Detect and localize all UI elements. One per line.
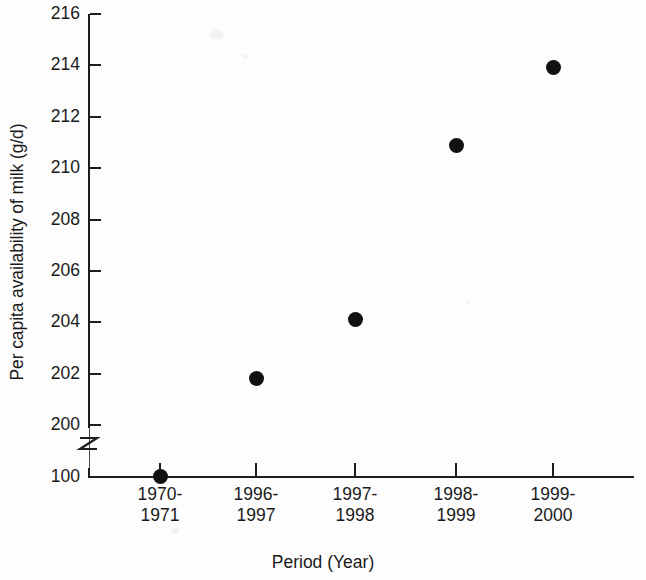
y-tick-mark	[90, 219, 101, 221]
y-tick-label: 214	[0, 56, 80, 74]
y-axis-line	[88, 14, 90, 478]
y-tick-label: 212	[0, 108, 80, 126]
x-tick-label: 1999-2000	[493, 484, 613, 527]
y-tick-label: 216	[0, 5, 80, 23]
y-tick-label: 206	[0, 262, 80, 280]
y-tick-label: 202	[0, 365, 80, 383]
x-tick-mark	[455, 463, 457, 477]
x-tick-mark	[552, 463, 554, 477]
data-point	[546, 60, 561, 75]
y-tick-mark	[90, 321, 101, 323]
x-tick-mark	[255, 463, 257, 477]
data-point	[153, 469, 168, 484]
y-tick-mark	[90, 167, 101, 169]
chart-figure: Per capita availability of milk (g/d) 21…	[0, 0, 646, 580]
axis-break-icon	[75, 428, 105, 468]
y-tick-label: 204	[0, 313, 80, 331]
y-tick-mark	[90, 64, 101, 66]
y-tick-label: 100	[0, 468, 80, 486]
scan-speck	[466, 300, 471, 304]
y-tick-mark	[90, 116, 101, 118]
data-point	[249, 371, 264, 386]
data-point	[348, 312, 363, 327]
y-tick-mark	[90, 424, 101, 426]
y-tick-label: 210	[0, 159, 80, 177]
y-tick-label: 208	[0, 211, 80, 229]
x-tick-mark	[354, 463, 356, 477]
y-tick-mark	[90, 373, 101, 375]
x-tick-label-line1: 1999-	[493, 484, 613, 505]
y-tick-mark	[90, 13, 101, 15]
scan-speck	[171, 528, 179, 534]
scan-speck	[242, 54, 248, 59]
y-tick-mark	[90, 270, 101, 272]
scan-speck	[210, 30, 224, 40]
x-axis-label: Period (Year)	[0, 552, 646, 573]
data-point	[449, 138, 464, 153]
x-tick-label-line2: 2000	[493, 505, 613, 526]
y-tick-label: 200	[0, 416, 80, 434]
